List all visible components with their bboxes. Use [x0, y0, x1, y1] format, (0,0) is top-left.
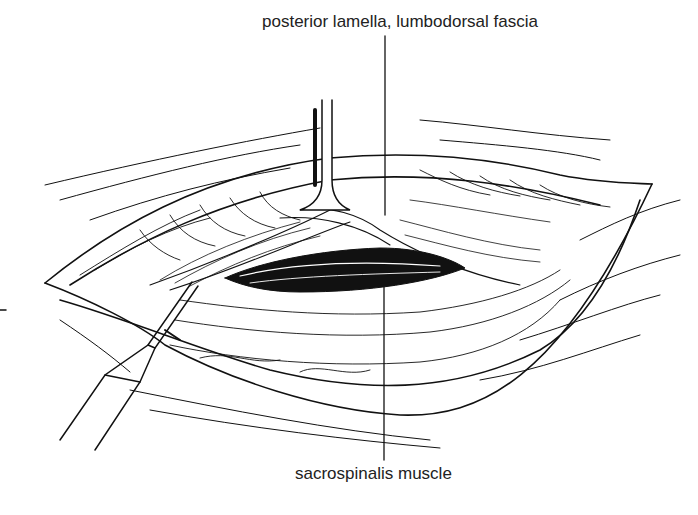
retractor-instrument — [300, 100, 350, 210]
forceps-instrument — [60, 282, 198, 450]
surgical-illustration — [0, 0, 698, 515]
sacrospinalis-muscle-belly — [225, 248, 465, 292]
